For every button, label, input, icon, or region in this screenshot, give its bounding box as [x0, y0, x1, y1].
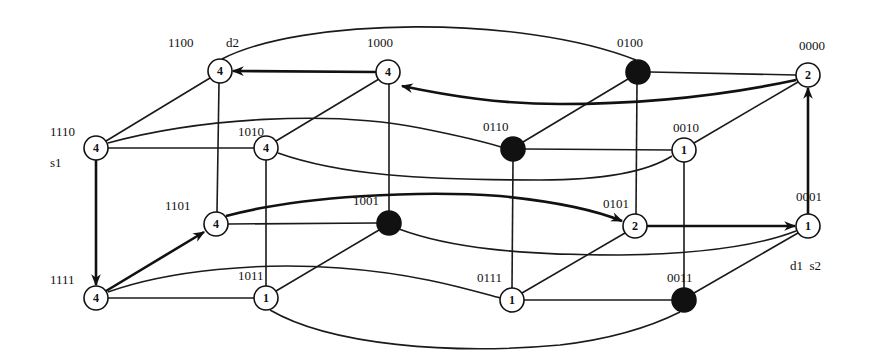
- node-0110: 0110: [483, 119, 525, 161]
- edge-0001-0011: [694, 233, 798, 293]
- node-label: 1011: [238, 268, 264, 283]
- node-label: 1000: [367, 35, 393, 50]
- node-1101: 4 1101: [165, 198, 228, 236]
- node-value: 4: [93, 141, 99, 155]
- node-0010: 1 0010: [672, 120, 699, 162]
- annotation-d1-s2: d1 s2: [790, 258, 821, 273]
- node-label: 1010: [238, 124, 264, 139]
- node-label: 1110: [50, 124, 75, 139]
- node-value: 2: [632, 219, 638, 233]
- node-label: 0001: [796, 189, 822, 204]
- edge-1001-0001-curve: [399, 229, 796, 255]
- node-tag: s1: [50, 155, 62, 170]
- edge-1001-1011: [276, 230, 379, 291]
- node-value: 1: [263, 291, 269, 305]
- node-label: 1001: [353, 193, 379, 208]
- edge-1011-0011-arc: [270, 310, 680, 349]
- node-value: 1: [681, 143, 687, 157]
- node-1000: 4 1000: [367, 35, 400, 84]
- edge-0100-0000: [650, 72, 796, 75]
- node-0111: 1 0111: [477, 270, 524, 312]
- route-1111-to-1101: [106, 232, 204, 291]
- node-1111: 4 1111: [50, 272, 108, 310]
- edge-1101-1001: [228, 223, 377, 224]
- node-value: 4: [93, 291, 99, 305]
- route-1000-to-1100: [233, 71, 376, 72]
- edge-0100-0110: [523, 79, 628, 142]
- node-1001: 1001: [353, 193, 401, 235]
- edge-1000-1010: [276, 79, 379, 141]
- hypercube-diagram: 4 1100 d2 4 1000 0100 2 0000 4 1110 s1: [0, 0, 879, 361]
- edge-1010-0010-curve: [278, 153, 672, 180]
- node-label: 0011: [667, 270, 693, 285]
- node-label: 0101: [603, 196, 629, 211]
- node-label: 0110: [483, 119, 509, 134]
- node-0011: 0011: [667, 270, 696, 312]
- edge-1100-0100-arc: [222, 27, 636, 60]
- edge-1110-0110-curve: [108, 118, 501, 147]
- node-label: 1100: [168, 35, 194, 50]
- node-value: 2: [805, 68, 811, 82]
- node-value: 4: [263, 141, 269, 155]
- node-value: 1: [509, 293, 515, 307]
- node-label: 1101: [165, 198, 191, 213]
- node-1100: 4 1100 d2: [168, 35, 239, 83]
- edge-0000-0010: [694, 82, 798, 143]
- node-1011: 1 1011: [238, 268, 278, 310]
- routed-paths: [96, 71, 808, 291]
- node-value: 4: [213, 217, 219, 231]
- node-label: 1111: [50, 272, 75, 287]
- node-1110: 4 1110 s1: [50, 124, 108, 170]
- node-1010: 4 1010: [238, 124, 278, 160]
- node-tag: d2: [226, 35, 239, 50]
- edge-0110-0010: [525, 149, 672, 150]
- edge-0101-0111: [522, 233, 625, 293]
- node-value: 4: [217, 64, 223, 78]
- route-1101-to-0101: [226, 194, 622, 221]
- node-value: 1: [805, 219, 811, 233]
- node-label: 0010: [673, 120, 699, 135]
- edge-1111-0111-curve: [108, 266, 500, 298]
- node-value: 4: [385, 65, 391, 79]
- node-label: 0100: [617, 35, 643, 50]
- nodes: 4 1100 d2 4 1000 0100 2 0000 4 1110 s1: [50, 35, 825, 312]
- node-0001: 1 0001: [796, 189, 822, 238]
- route-0000-to-1000: [402, 80, 796, 104]
- node-label: 0111: [477, 270, 502, 285]
- node-0000: 2 0000: [796, 38, 825, 87]
- node-label: 0000: [799, 38, 825, 53]
